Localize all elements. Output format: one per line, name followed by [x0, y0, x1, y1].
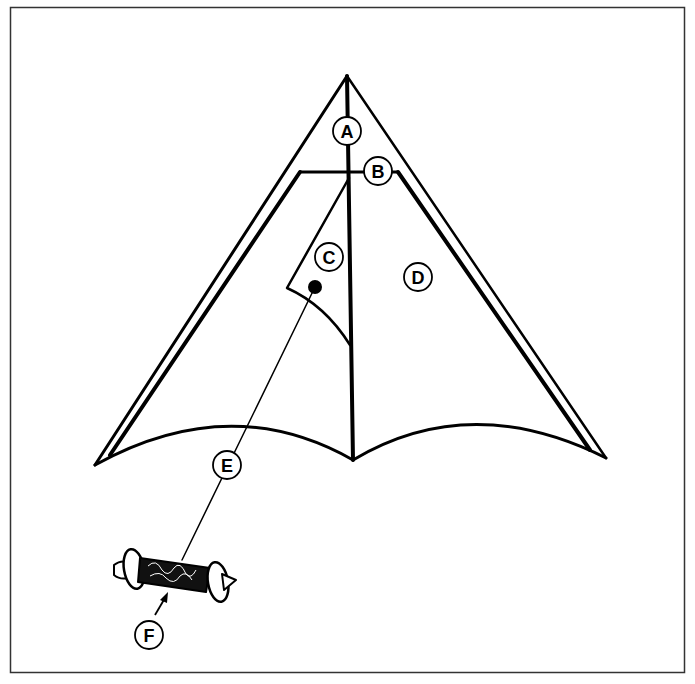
- svg-text:A: A: [341, 122, 354, 142]
- arrow-icon: [155, 592, 168, 615]
- label-d: D: [404, 263, 432, 291]
- reel-icon: [114, 548, 236, 604]
- svg-text:E: E: [221, 456, 233, 476]
- trailing-edge-right: [353, 424, 606, 460]
- label-c: C: [315, 243, 343, 271]
- kite-diagram: A B C D E F: [0, 0, 695, 684]
- svg-text:C: C: [323, 248, 336, 268]
- sail-right-edge: [347, 76, 606, 458]
- label-b: B: [364, 157, 392, 185]
- svg-text:D: D: [412, 268, 425, 288]
- sail-left-edge: [95, 76, 347, 465]
- svg-text:F: F: [144, 626, 155, 646]
- label-e: E: [213, 451, 241, 479]
- right-spar: [398, 172, 590, 450]
- diagram-frame: A B C D E F: [0, 0, 695, 684]
- kite: [95, 76, 606, 560]
- label-a: A: [333, 117, 361, 145]
- flying-line: [182, 287, 315, 560]
- label-f: F: [135, 621, 163, 649]
- left-spar: [110, 172, 300, 455]
- svg-text:B: B: [372, 162, 385, 182]
